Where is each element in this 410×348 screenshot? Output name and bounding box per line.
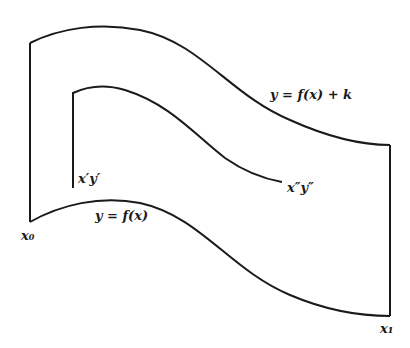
diagram-canvas: [0, 0, 410, 348]
label-left-bound: x₀: [21, 229, 34, 242]
label-inner-start: x′y′: [78, 172, 100, 185]
label-inner-end: x″y″: [287, 181, 314, 194]
label-right-bound: x₁: [380, 322, 393, 335]
label-upper-curve: y = f(x) + k: [270, 88, 352, 101]
inner-path: [73, 86, 282, 188]
upper-curve: [30, 26, 390, 145]
lower-curve: [30, 200, 390, 316]
label-lower-curve: y = f(x): [95, 209, 148, 222]
